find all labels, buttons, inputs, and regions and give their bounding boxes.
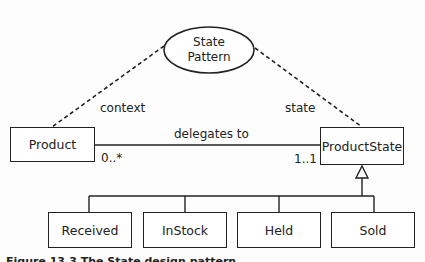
- class-sold: Sold: [331, 212, 415, 248]
- pattern-name: State Pattern: [169, 35, 249, 65]
- class-product: Product: [10, 127, 95, 162]
- state-dashed-line: [255, 48, 362, 127]
- pattern-name-line2: Pattern: [169, 50, 249, 65]
- context-role-label: context: [100, 102, 145, 114]
- generalization-triangle-icon: [356, 166, 368, 178]
- target-multiplicity: 1..1: [294, 153, 317, 165]
- class-held: Held: [237, 212, 321, 248]
- class-instock: InStock: [143, 212, 227, 248]
- association-label: delegates to: [174, 128, 249, 140]
- source-multiplicity: 0..*: [101, 152, 122, 164]
- figure-caption: Figure 13.3 The State design pattern: [6, 255, 236, 262]
- state-role-label: state: [285, 102, 315, 114]
- pattern-name-line1: State: [169, 35, 249, 50]
- class-productstate: ProductState: [320, 127, 404, 165]
- class-received: Received: [48, 212, 132, 248]
